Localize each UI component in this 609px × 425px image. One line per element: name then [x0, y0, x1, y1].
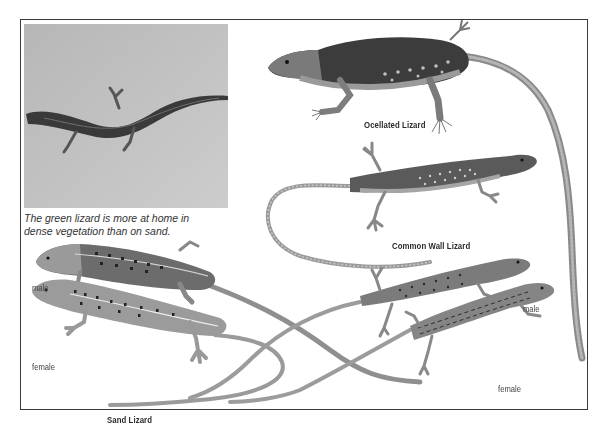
viviparous-lizard-male-label: male — [523, 304, 540, 314]
sand-lizard-male-label: male — [32, 283, 49, 293]
sand-lizard-label: Sand Lizard — [107, 414, 152, 425]
caption-line-1: The green lizard is more at home in — [24, 212, 254, 225]
sand-lizard-female-label: female — [32, 362, 55, 372]
viviparous-lizard-female-label: female — [498, 384, 521, 394]
common-wall-lizard-label: Common Wall Lizard — [392, 240, 470, 251]
caption-line-2: dense vegetation than on sand. — [24, 225, 254, 238]
ocellated-lizard-label: Ocellated Lizard — [364, 119, 425, 130]
lizard-on-sand-image — [24, 24, 228, 208]
green-lizard-photo — [24, 24, 228, 208]
photo-caption: The green lizard is more at home in dens… — [24, 212, 254, 238]
